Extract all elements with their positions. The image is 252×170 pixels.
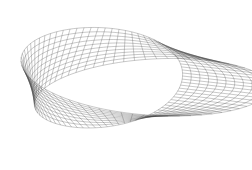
mesh-longitude-line [29,43,230,117]
figure-canvas [0,0,252,170]
mesh-ruling-line [162,44,200,59]
mesh-ruling-line [78,103,101,128]
mobius-strip-wireframe [0,0,252,170]
mesh-ruling-line [180,64,252,73]
mesh-ruling-line [84,28,98,70]
mesh-ruling-line [39,85,72,127]
mesh-lines [21,27,252,127]
mesh-ruling-line [76,27,91,72]
mesh-ruling-line [179,88,252,98]
mesh-longitude-line [25,36,246,116]
mesh-ruling-line [177,58,245,68]
mesh-ruling-line [154,39,179,58]
mesh-longitude-line [32,52,243,121]
